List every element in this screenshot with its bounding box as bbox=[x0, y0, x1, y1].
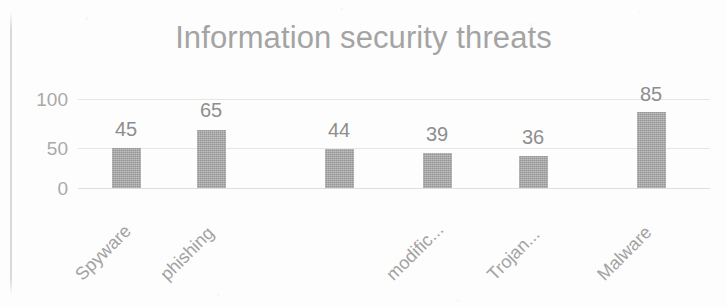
data-label-trojan: 36 bbox=[501, 127, 565, 147]
gridline-100 bbox=[78, 99, 710, 100]
bar-phishing[interactable] bbox=[197, 130, 226, 188]
x-category-label-malware: Malware bbox=[594, 223, 655, 284]
plot-area: 100 50 0 45 65 44 39 36 85 Spyware phish… bbox=[0, 0, 727, 307]
x-category-label-spyware: Spyware bbox=[72, 221, 134, 283]
bar-modification[interactable] bbox=[423, 153, 452, 188]
data-label-modification: 39 bbox=[405, 124, 469, 144]
bar-category-3[interactable] bbox=[325, 149, 354, 188]
gridline-0 bbox=[78, 188, 710, 189]
bar-trojan[interactable] bbox=[519, 156, 548, 188]
x-category-label-phishing: phishing bbox=[157, 224, 217, 284]
y-tick-label-50: 50 bbox=[22, 139, 68, 158]
bar-spyware[interactable] bbox=[112, 148, 141, 188]
x-category-label-trojan: Trojan... bbox=[484, 225, 543, 284]
y-tick-label-0: 0 bbox=[22, 179, 68, 198]
x-category-label-modification: modific... bbox=[383, 220, 447, 284]
data-label-category-3: 44 bbox=[307, 120, 371, 140]
scanned-chart-page: Information security threats 100 50 0 45… bbox=[0, 0, 727, 307]
data-label-spyware: 45 bbox=[94, 119, 158, 139]
data-label-malware: 85 bbox=[619, 84, 683, 104]
bar-malware[interactable] bbox=[637, 112, 666, 188]
data-label-phishing: 65 bbox=[179, 100, 243, 120]
y-tick-label-100: 100 bbox=[22, 90, 68, 109]
gridline-50 bbox=[78, 148, 710, 149]
